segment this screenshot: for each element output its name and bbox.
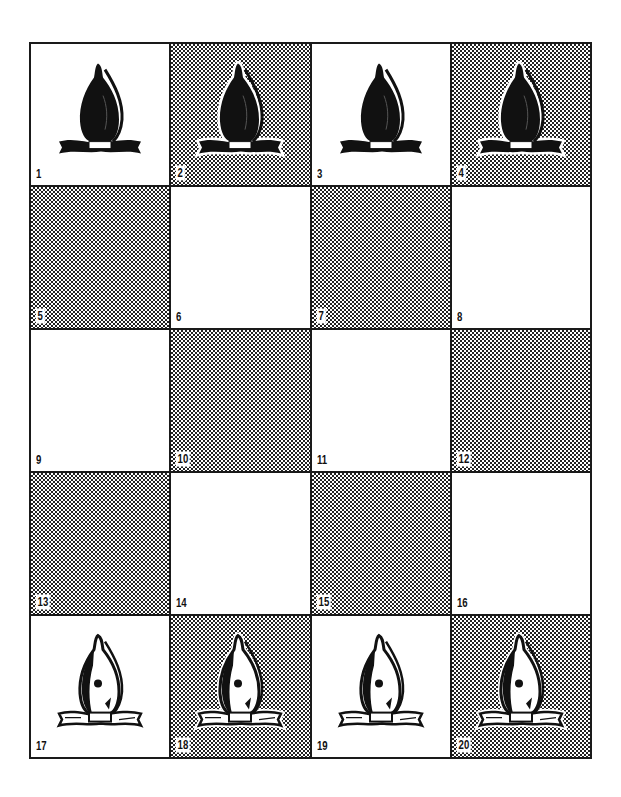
- square-number: 17: [36, 740, 47, 752]
- black-bishop-icon: [326, 55, 436, 165]
- board-square[interactable]: 18: [171, 616, 309, 757]
- white-bishop[interactable]: [185, 627, 295, 737]
- square-number: 10: [176, 452, 190, 466]
- black-bishop-icon: [45, 55, 155, 165]
- square-number: 15: [317, 595, 331, 609]
- board-square[interactable]: 1: [31, 44, 169, 185]
- board-square[interactable]: 4: [452, 44, 590, 185]
- white-bishop-icon: [185, 627, 295, 737]
- black-bishop[interactable]: [326, 55, 436, 165]
- board-square[interactable]: 2: [171, 44, 309, 185]
- square-number: 9: [36, 454, 41, 466]
- square-number: 7: [317, 309, 326, 323]
- black-bishop-icon: [466, 55, 576, 165]
- board-square[interactable]: 3: [312, 44, 450, 185]
- square-number: 6: [176, 311, 181, 323]
- square-number: 5: [36, 309, 45, 323]
- game-board: 1 2 3 45678910111213141516: [29, 42, 592, 759]
- square-number: 19: [317, 740, 328, 752]
- board-square[interactable]: 5: [31, 187, 169, 328]
- board-square[interactable]: 16: [452, 473, 590, 614]
- white-bishop[interactable]: [326, 627, 436, 737]
- square-number: 16: [457, 597, 468, 609]
- board-square[interactable]: 17: [31, 616, 169, 757]
- square-number: 20: [457, 738, 471, 752]
- board-square[interactable]: 9: [31, 330, 169, 471]
- square-number: 14: [176, 597, 187, 609]
- board-square[interactable]: 7: [312, 187, 450, 328]
- white-bishop-icon: [45, 627, 155, 737]
- square-number: 4: [457, 166, 466, 180]
- board-square[interactable]: 12: [452, 330, 590, 471]
- black-bishop[interactable]: [466, 55, 576, 165]
- black-bishop[interactable]: [45, 55, 155, 165]
- board-square[interactable]: 8: [452, 187, 590, 328]
- board-square[interactable]: 20: [452, 616, 590, 757]
- square-number: 2: [176, 166, 185, 180]
- white-bishop[interactable]: [466, 627, 576, 737]
- square-number: 1: [36, 168, 41, 180]
- square-number: 8: [457, 311, 462, 323]
- white-bishop-icon: [466, 627, 576, 737]
- black-bishop[interactable]: [185, 55, 295, 165]
- square-number: 12: [457, 452, 471, 466]
- square-number: 3: [317, 168, 322, 180]
- board-square[interactable]: 11: [312, 330, 450, 471]
- white-bishop-icon: [326, 627, 436, 737]
- board-square[interactable]: 19: [312, 616, 450, 757]
- board-square[interactable]: 13: [31, 473, 169, 614]
- board-square[interactable]: 6: [171, 187, 309, 328]
- board-square[interactable]: 10: [171, 330, 309, 471]
- square-number: 11: [317, 454, 327, 466]
- board-square[interactable]: 14: [171, 473, 309, 614]
- square-number: 13: [36, 595, 50, 609]
- square-number: 18: [176, 738, 190, 752]
- white-bishop[interactable]: [45, 627, 155, 737]
- black-bishop-icon: [185, 55, 295, 165]
- board-square[interactable]: 15: [312, 473, 450, 614]
